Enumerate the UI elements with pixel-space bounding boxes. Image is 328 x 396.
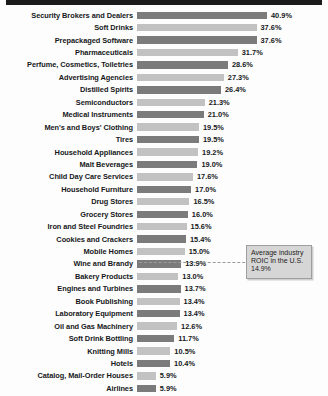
bar-row: Security Brokers and Dealers40.9%	[0, 9, 328, 21]
bar-category-label: Soft Drink Bottling	[0, 334, 137, 343]
bar-category-label: Pharmaceuticals	[0, 48, 137, 57]
bar-row: Prepackaged Software37.6%	[0, 34, 328, 46]
bar-category-label: Child Day Care Services	[0, 172, 137, 181]
bar	[137, 49, 238, 56]
title-banner	[6, 0, 322, 5]
bar-row: Laboratory Equipment13.4%	[0, 308, 328, 320]
bar	[137, 186, 191, 193]
bar-category-label: Wine and Brandy	[0, 259, 137, 268]
bar	[137, 335, 174, 342]
bar-value-label: 17.6%	[197, 172, 218, 181]
bar-track: 19.0%	[137, 158, 328, 170]
bar	[137, 173, 193, 180]
bar-value-label: 10.5%	[174, 347, 195, 356]
bar	[137, 61, 228, 68]
bar-track: 10.4%	[137, 357, 328, 369]
bar-value-label: 19.5%	[203, 123, 224, 132]
bar-value-label: 19.5%	[203, 135, 224, 144]
bar-value-label: 19.0%	[201, 160, 222, 169]
average-roic-callout: Average industry ROIC in the U.S. 14.9%	[246, 245, 312, 279]
bar-value-label: 21.3%	[209, 98, 230, 107]
bar-value-label: 5.9%	[160, 371, 177, 380]
bar-value-label: 5.9%	[160, 384, 177, 393]
average-reference-line	[139, 262, 255, 263]
bar-value-label: 13.4%	[184, 309, 205, 318]
bar-row: Iron and Steel Foundries15.6%	[0, 220, 328, 232]
bar-category-label: Prepackaged Software	[0, 36, 137, 45]
bar-track: 5.9%	[137, 382, 328, 394]
bar-category-label: Drug Stores	[0, 197, 137, 206]
bar-track: 19.5%	[137, 133, 328, 145]
bar	[137, 310, 180, 317]
bar-row: Grocery Stores16.0%	[0, 208, 328, 220]
bar-row: Perfume, Cosmetics, Toiletries28.6%	[0, 59, 328, 71]
bar-category-label: Hotels	[0, 359, 137, 368]
bar-row: Soft Drink Bottling11.7%	[0, 332, 328, 344]
bar-row: Knitting Mills10.5%	[0, 345, 328, 357]
bar-row: Catalog, Mail-Order Houses5.9%	[0, 370, 328, 382]
bar-row: Child Day Care Services17.6%	[0, 171, 328, 183]
bar-track: 21.0%	[137, 109, 328, 121]
bar-track: 13.7%	[137, 283, 328, 295]
bar-track: 37.6%	[137, 21, 328, 33]
bar-value-label: 13.7%	[185, 284, 206, 293]
bar-row: Men's and Boys' Clothing19.5%	[0, 121, 328, 133]
bar-row: Semiconductors21.3%	[0, 96, 328, 108]
bar-category-label: Iron and Steel Foundries	[0, 222, 137, 231]
bar-value-label: 15.6%	[191, 222, 212, 231]
bar	[137, 248, 185, 255]
bar	[137, 12, 267, 19]
bar-track: 13.4%	[137, 308, 328, 320]
bar-category-label: Cookies and Crackers	[0, 235, 137, 244]
bar-track: 16.5%	[137, 196, 328, 208]
bar-category-label: Soft Drinks	[0, 23, 137, 32]
bar-category-label: Airlines	[0, 384, 137, 393]
bar-track: 21.3%	[137, 96, 328, 108]
bar-category-label: Household Furniture	[0, 185, 137, 194]
bar-category-label: Malt Beverages	[0, 160, 137, 169]
bar	[137, 86, 221, 93]
bar-track: 16.0%	[137, 208, 328, 220]
bar-track: 12.6%	[137, 320, 328, 332]
bar-value-label: 11.7%	[178, 334, 199, 343]
bar-row: Drug Stores16.5%	[0, 196, 328, 208]
bar-category-label: Distilled Spirits	[0, 85, 137, 94]
bar-value-label: 13.0%	[182, 272, 203, 281]
bar-category-label: Medical Instruments	[0, 110, 137, 119]
bar-category-label: Tires	[0, 135, 137, 144]
bar	[137, 273, 178, 280]
bar-category-label: Mobile Homes	[0, 247, 137, 256]
bar-category-label: Perfume, Cosmetics, Toiletries	[0, 60, 137, 69]
bar-category-label: Household Appliances	[0, 148, 137, 157]
bar-track: 40.9%	[137, 9, 328, 21]
bar-track: 26.4%	[137, 84, 328, 96]
bar	[137, 385, 156, 392]
bar-value-label: 37.6%	[261, 23, 282, 32]
bar	[137, 235, 186, 242]
bar-track: 17.0%	[137, 183, 328, 195]
bar-category-label: Knitting Mills	[0, 347, 137, 356]
bar	[137, 36, 257, 43]
bar-chart-plot-area: Security Brokers and Dealers40.9%Soft Dr…	[0, 9, 328, 396]
bar-value-label: 21.0%	[208, 110, 229, 119]
bar-track: 10.5%	[137, 345, 328, 357]
bar	[137, 99, 205, 106]
bar-row: Tires19.5%	[0, 133, 328, 145]
bar-category-label: Catalog, Mail-Order Houses	[0, 371, 137, 380]
bar-category-label: Men's and Boys' Clothing	[0, 123, 137, 132]
bar-row: Household Furniture17.0%	[0, 183, 328, 195]
bar-row: Distilled Spirits26.4%	[0, 84, 328, 96]
bar-track: 28.6%	[137, 59, 328, 71]
bar-category-label: Advertising Agencies	[0, 73, 137, 82]
bar-value-label: 17.0%	[195, 185, 216, 194]
bar	[137, 123, 199, 130]
bar	[137, 24, 257, 31]
bar-value-label: 19.2%	[202, 148, 223, 157]
callout-line-3: 14.9%	[251, 265, 308, 273]
bar-row: Cookies and Crackers15.4%	[0, 233, 328, 245]
callout-line-2: ROIC in the U.S.	[251, 257, 308, 265]
bar-row: Medical Instruments21.0%	[0, 109, 328, 121]
bar-track: 31.7%	[137, 46, 328, 58]
bar-value-label: 13.9%	[185, 259, 206, 268]
bar	[137, 74, 224, 81]
